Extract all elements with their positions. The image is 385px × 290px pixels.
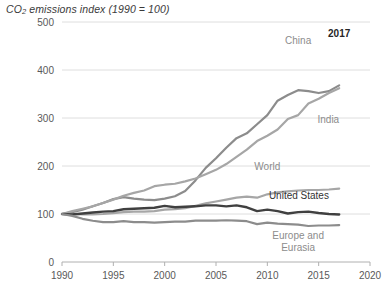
series-line-europe-and-eurasia bbox=[62, 214, 339, 226]
series-label-china: China bbox=[285, 35, 312, 46]
series-label-india: India bbox=[318, 114, 340, 125]
x-tick-label-1995: 1995 bbox=[102, 270, 125, 281]
y-tick-label-500: 500 bbox=[37, 17, 54, 28]
y-tick-label-400: 400 bbox=[37, 65, 54, 76]
y-tick-label-100: 100 bbox=[37, 209, 54, 220]
x-tick-label-2000: 2000 bbox=[154, 270, 177, 281]
x-tick-label-1990: 1990 bbox=[51, 270, 74, 281]
x-tick-label-2015: 2015 bbox=[308, 270, 331, 281]
x-axis-tick-labels: 1990199520002005201020152020 bbox=[51, 270, 382, 281]
series-label-united-states: United States bbox=[269, 190, 329, 201]
series-labels-group: ChinaIndiaWorldUnited StatesEurope andEu… bbox=[254, 35, 339, 253]
x-tick-label-2010: 2010 bbox=[256, 270, 279, 281]
series-label-world: World bbox=[254, 161, 280, 172]
series-label-europe-and-eurasia-line2: Eurasia bbox=[281, 242, 315, 253]
annotations-group: 2017 bbox=[328, 28, 351, 39]
y-tick-label-0: 0 bbox=[48, 257, 54, 268]
y-axis-tick-labels: 0100200300400500 bbox=[37, 17, 54, 268]
x-tick-label-2005: 2005 bbox=[205, 270, 228, 281]
x-axis-tick-marks bbox=[62, 262, 370, 266]
y-tick-label-300: 300 bbox=[37, 113, 54, 124]
series-label-europe-and-eurasia-line1: Europe and bbox=[272, 230, 324, 241]
y-tick-label-200: 200 bbox=[37, 161, 54, 172]
co2-emissions-index-chart: CO2 emissions index (1990 = 100) 0100200… bbox=[0, 0, 385, 290]
data-series-group bbox=[62, 85, 339, 226]
x-tick-label-2020: 2020 bbox=[359, 270, 382, 281]
end-year-annotation: 2017 bbox=[328, 28, 351, 39]
chart-canvas: 0100200300400500 19901995200020052010201… bbox=[0, 0, 385, 290]
